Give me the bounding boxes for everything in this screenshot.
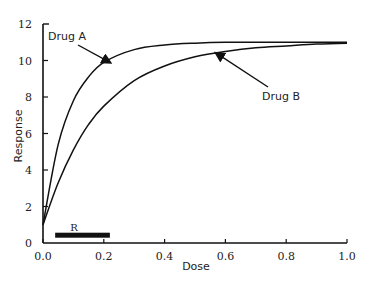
drug-b-arrow [216, 53, 268, 87]
drug-b-label: Drug B [262, 90, 300, 103]
y-tick-label: 12 [18, 18, 32, 31]
y-tick-label: 4 [25, 164, 32, 177]
range-bar-label: R [70, 222, 78, 233]
x-tick-label: 0.0 [34, 250, 52, 263]
x-tick-label: 0.8 [277, 250, 295, 263]
y-tick-label: 0 [25, 237, 32, 250]
x-tick-label: 0.2 [95, 250, 113, 263]
y-tick-label: 10 [18, 55, 32, 68]
y-tick-label: 6 [25, 128, 32, 141]
x-axis-title: Dose [182, 260, 210, 273]
series-lines [43, 42, 347, 225]
tick-labels: 0246810120.00.20.40.60.81.0 [18, 18, 356, 263]
dose-response-chart: 0246810120.00.20.40.60.81.0 Dose Respons… [0, 0, 370, 282]
x-tick-label: 1.0 [338, 250, 356, 263]
drug-a-label: Drug A [48, 30, 86, 43]
annotations [55, 45, 268, 238]
series-line-drug-b [43, 43, 347, 225]
y-tick-label: 2 [25, 201, 32, 214]
x-tick-label: 0.4 [156, 250, 174, 263]
y-tick-label: 8 [25, 91, 32, 104]
y-axis-title: Response [12, 109, 25, 162]
range-bar [55, 233, 110, 238]
series-line-drug-a [43, 42, 347, 225]
drug-a-arrow [78, 45, 110, 62]
x-tick-label: 0.6 [217, 250, 235, 263]
